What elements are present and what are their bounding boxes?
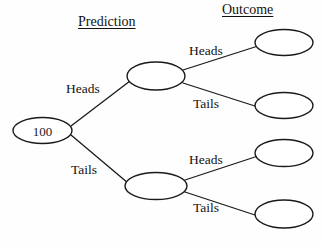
edge-label-prediction-heads-outcome-heads: Heads	[189, 44, 223, 58]
node-outcome-tails-heads[interactable]	[255, 140, 313, 167]
tree-svg-canvas: 100	[0, 0, 323, 245]
node-outcome-tails-tails[interactable]	[255, 200, 313, 228]
edge-label-prediction-heads-outcome-tails: Tails	[193, 97, 219, 111]
edge-label-prediction-tails-outcome-tails: Tails	[193, 201, 219, 215]
heading-prediction: Prediction	[78, 15, 136, 29]
node-outcome-heads-tails[interactable]	[255, 93, 313, 119]
edge-label-root-tails: Tails	[71, 163, 97, 177]
decision-tree-diagram: 100 Prediction Outcome Heads Tails Heads…	[0, 0, 323, 245]
heading-outcome: Outcome	[222, 3, 273, 17]
node-prediction-heads[interactable]	[127, 62, 185, 90]
node-prediction-tails[interactable]	[125, 173, 187, 200]
edge-label-prediction-tails-outcome-heads: Heads	[189, 153, 223, 167]
edge-label-root-heads: Heads	[66, 82, 100, 96]
node-root-label: 100	[33, 124, 53, 139]
node-outcome-heads-heads[interactable]	[255, 30, 313, 56]
